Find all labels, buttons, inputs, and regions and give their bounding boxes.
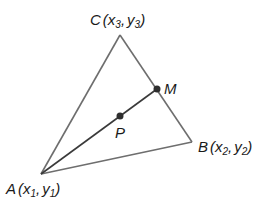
label-point-m: M xyxy=(164,80,177,97)
point-m xyxy=(154,86,161,93)
label-point-p: P xyxy=(115,124,125,141)
point-p xyxy=(117,113,124,120)
edge-ac xyxy=(41,35,120,174)
label-vertex-b: B(x2,y2) xyxy=(198,138,252,157)
triangle-diagram: C(x3,y3) M P B(x2,y2) A(x1,y1) xyxy=(0,0,277,210)
label-vertex-c: C(x3,y3) xyxy=(90,11,145,30)
label-vertex-a: A(x1,y1) xyxy=(5,180,60,199)
